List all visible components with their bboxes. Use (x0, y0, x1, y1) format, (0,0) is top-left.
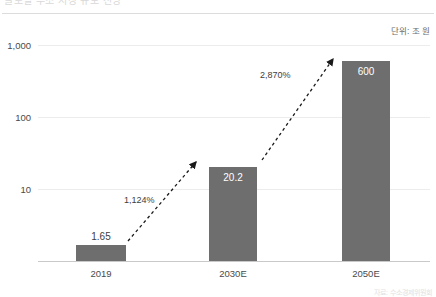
bar-2050E[interactable]: 600 2050E (342, 61, 390, 261)
gridline-1000 (38, 45, 430, 46)
growth-label-2030-2050: 2,870% (260, 70, 291, 80)
bar-value-2019: 1.65 (91, 231, 110, 242)
bar-2030E[interactable]: 20.2 2030E (209, 167, 257, 261)
y-axis-tick-100: 100 (15, 112, 31, 123)
bar-value-2050E: 600 (358, 66, 375, 77)
x-axis-label-2030E: 2030E (219, 268, 246, 279)
source-note: 자료: 수소경제위원회 (374, 287, 432, 297)
y-axis-tick-1000: 1,000 (7, 40, 31, 51)
axis-baseline (38, 261, 430, 262)
y-axis-tick-10: 10 (20, 184, 31, 195)
bar-2019[interactable]: 1.65 2019 (76, 245, 126, 261)
unit-note: 단위: 조 원 (391, 24, 430, 36)
plot-area: 1,000 100 10 1.65 2019 20.2 2030E 600 20… (38, 45, 430, 261)
x-axis-label-2050E: 2050E (352, 268, 379, 279)
growth-label-2019-2030: 1,124% (124, 195, 155, 205)
bar-value-2030E: 20.2 (223, 172, 242, 183)
x-axis-label-2019: 2019 (90, 268, 111, 279)
header-divider (2, 13, 434, 14)
page-title: 글로벌 수소 시장 규모 전망 (4, 0, 122, 6)
